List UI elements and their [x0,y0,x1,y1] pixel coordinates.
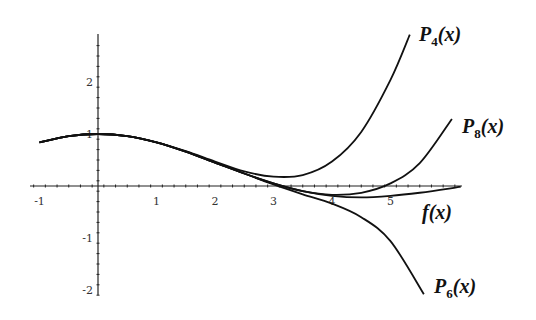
curve-labels: P4(x) P8(x) f(x) P6(x) [418,23,504,301]
curve-p6x [40,134,424,294]
curve-p8x [40,119,452,195]
x-tick-label: 1 [153,195,160,208]
taylor-polynomial-chart: -11234521-1-2 P4(x) P8(x) f(x) P6(x) [0,0,536,320]
y-tick-label: -1 [82,232,93,245]
minor-ticks [34,46,455,296]
label-f: f(x) [422,201,452,224]
x-tick-label: 3 [270,195,277,208]
curves [40,35,461,294]
label-p6: P6(x) [433,275,476,301]
axes: -11234521-1-2 [30,34,462,297]
curve-p4x [40,35,410,177]
label-p8: P8(x) [461,115,504,141]
x-tick-label: 2 [212,195,219,208]
y-tick-label: -2 [82,284,93,297]
y-tick-label: 2 [86,76,93,89]
x-tick-label: -1 [34,195,45,208]
curve-fx [40,134,461,197]
label-p4: P4(x) [418,23,461,49]
